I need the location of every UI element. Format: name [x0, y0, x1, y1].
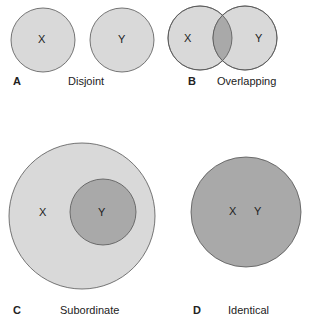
- set-label-y: Y: [118, 33, 125, 45]
- panel-a-disjoint: [11, 8, 154, 72]
- set-label-x: X: [184, 32, 191, 44]
- panel-title-c: Subordinate: [60, 304, 119, 316]
- panel-d-identical: [191, 157, 301, 267]
- set-label-y: Y: [254, 205, 261, 217]
- set-label-y: Y: [255, 32, 262, 44]
- panel-letter-b: B: [188, 75, 196, 87]
- set-xy-circle: [191, 157, 301, 267]
- set-label-x: X: [229, 205, 236, 217]
- venn-diagrams: [0, 0, 317, 322]
- panel-c-subordinate: [9, 143, 155, 289]
- panel-title-b: Overlapping: [217, 75, 276, 87]
- panel-title-a: Disjoint: [68, 75, 104, 87]
- set-label-x: X: [38, 33, 45, 45]
- panel-letter-c: C: [13, 304, 21, 316]
- panel-letter-d: D: [193, 304, 201, 316]
- panel-letter-a: A: [13, 75, 21, 87]
- set-label-y: Y: [98, 206, 105, 218]
- set-label-x: X: [39, 206, 46, 218]
- panel-title-d: Identical: [228, 304, 269, 316]
